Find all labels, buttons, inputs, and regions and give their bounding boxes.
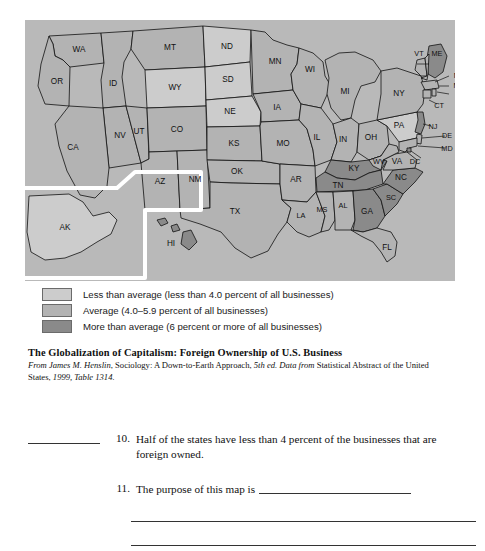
svg-text:IL: IL <box>314 133 321 142</box>
svg-text:AL: AL <box>339 201 348 210</box>
svg-text:NM: NM <box>189 175 202 184</box>
svg-text:GA: GA <box>361 207 373 216</box>
svg-text:MT: MT <box>164 43 176 52</box>
svg-text:MS: MS <box>317 205 328 214</box>
caption-source-author: James M. Henslin <box>49 360 111 370</box>
svg-text:FL: FL <box>382 243 392 252</box>
question-11-number: 11. <box>108 482 136 494</box>
svg-text:OK: OK <box>231 167 243 176</box>
svg-text:TN: TN <box>333 181 344 190</box>
question-11-row: 11. The purpose of this map is <box>108 482 468 497</box>
svg-text:ME: ME <box>432 49 443 58</box>
legend-row-less-than-average: Less than average (less than 4.0 percent… <box>42 287 442 302</box>
svg-text:IA: IA <box>273 103 281 112</box>
legend-swatch-more-than-average <box>42 320 72 333</box>
svg-text:MN: MN <box>269 57 282 66</box>
svg-text:CT: CT <box>434 101 444 110</box>
svg-text:VT: VT <box>414 49 424 58</box>
svg-text:AK: AK <box>60 223 71 232</box>
svg-text:TX: TX <box>230 207 241 216</box>
svg-text:WY: WY <box>168 83 182 92</box>
svg-text:CO: CO <box>171 125 183 134</box>
legend-swatch-less-than-average <box>42 288 72 301</box>
question-10-text: Half of the states have less than 4 perc… <box>136 432 468 462</box>
svg-text:NJ: NJ <box>429 122 438 131</box>
svg-text:HI: HI <box>167 239 175 248</box>
question-11-answer-blank-1[interactable] <box>259 482 411 494</box>
svg-text:ID: ID <box>109 79 117 88</box>
worksheet-page: WA OR ID MT WY NV UT CA CO AZ NM ND SD N… <box>0 0 485 551</box>
svg-text:NC: NC <box>395 173 407 182</box>
caption-source-work: , Sociology: A Down-to-Earth Approach, <box>111 360 254 370</box>
us-choropleth-map: WA OR ID MT WY NV UT CA CO AZ NM ND SD N… <box>25 20 455 281</box>
svg-text:NV: NV <box>114 131 126 140</box>
map-svg: WA OR ID MT WY NV UT CA CO AZ NM ND SD N… <box>25 20 455 281</box>
state-OK <box>207 160 280 184</box>
caption-source-from: From <box>28 360 47 370</box>
state-AL <box>333 191 355 230</box>
svg-text:WA: WA <box>73 45 86 54</box>
svg-text:VA: VA <box>392 157 403 166</box>
question-11-text-wrap: The purpose of this map is <box>136 482 411 497</box>
questions-section: 10. Half of the states have less than 4 … <box>28 432 468 546</box>
svg-text:SD: SD <box>222 75 233 84</box>
svg-text:OH: OH <box>365 133 377 142</box>
svg-text:LA: LA <box>297 211 306 220</box>
map-legend: Less than average (less than 4.0 percent… <box>42 287 442 335</box>
state-RI <box>432 89 436 96</box>
svg-text:NH: NH <box>454 71 455 80</box>
svg-text:MD: MD <box>441 144 452 153</box>
question-11-answer-line-2[interactable] <box>131 520 476 522</box>
caption-source-edition: 5th ed. Data from <box>254 360 315 370</box>
svg-text:DE: DE <box>442 131 452 140</box>
legend-label-less-than-average: Less than average (less than 4.0 percent… <box>83 289 334 300</box>
svg-text:ND: ND <box>221 42 233 51</box>
legend-label-more-than-average: More than average (6 percent or more of … <box>83 321 322 332</box>
legend-row-more-than-average: More than average (6 percent or more of … <box>42 319 442 334</box>
state-DC <box>407 148 411 152</box>
svg-text:SC: SC <box>386 193 396 202</box>
svg-text:KY: KY <box>349 164 360 173</box>
svg-text:IN: IN <box>339 135 347 144</box>
figure-caption: The Globalization of Capitalism: Foreign… <box>28 347 448 383</box>
question-11-answer-line-3[interactable] <box>131 544 476 546</box>
question-10-answer-blank[interactable] <box>28 432 100 444</box>
state-CT <box>423 90 431 98</box>
legend-swatch-average <box>42 304 72 317</box>
svg-text:AR: AR <box>290 175 301 184</box>
svg-text:MO: MO <box>276 139 289 148</box>
svg-text:UT: UT <box>134 127 145 136</box>
svg-text:WI: WI <box>305 65 315 74</box>
caption-title: The Globalization of Capitalism: Foreign… <box>28 347 448 358</box>
legend-row-average: Average (4.0–5.9 percent of all business… <box>42 303 442 318</box>
caption-source: From James M. Henslin, Sociology: A Down… <box>28 360 448 383</box>
question-11-text: The purpose of this map is <box>136 483 255 495</box>
svg-text:NE: NE <box>224 107 236 116</box>
svg-text:PA: PA <box>394 121 405 130</box>
question-10-row: 10. Half of the states have less than 4 … <box>28 432 468 462</box>
svg-text:AZ: AZ <box>155 177 165 186</box>
legend-label-average: Average (4.0–5.9 percent of all business… <box>83 305 268 316</box>
svg-text:MA: MA <box>454 81 455 90</box>
svg-text:MI: MI <box>340 87 349 96</box>
svg-text:NY: NY <box>393 89 405 98</box>
caption-source-year: 1999, Table 1314. <box>53 372 115 382</box>
svg-text:OR: OR <box>51 77 63 86</box>
svg-text:DC: DC <box>410 157 421 166</box>
svg-text:WV: WV <box>373 157 385 166</box>
svg-text:KS: KS <box>229 139 240 148</box>
svg-text:CA: CA <box>67 143 79 152</box>
question-10-number: 10. <box>108 432 136 444</box>
